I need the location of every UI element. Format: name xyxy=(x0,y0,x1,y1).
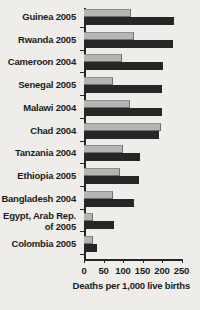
x-axis-tick-label: 0 xyxy=(81,265,86,276)
bar-dark xyxy=(84,131,159,139)
category-label: Tanzania 2004 xyxy=(15,148,76,159)
bar-dark xyxy=(84,17,174,25)
bar-light xyxy=(84,145,123,153)
bar-light xyxy=(84,9,131,17)
bar-dark xyxy=(84,108,162,116)
bar-dark xyxy=(84,199,134,207)
x-axis-tick xyxy=(104,259,105,263)
category-label: Egypt, Arab Rep. of 2005 xyxy=(3,211,76,232)
x-axis-tick xyxy=(162,259,163,263)
bar-dark xyxy=(84,244,97,252)
bar-light xyxy=(84,191,113,199)
bar-light xyxy=(84,100,130,108)
bar-dark xyxy=(84,153,140,161)
category-label: Bangladesh 2004 xyxy=(1,194,76,205)
bar-light xyxy=(84,213,93,221)
bar-light xyxy=(84,123,161,131)
y-axis-minor-tick xyxy=(80,163,84,164)
bar-light xyxy=(84,77,113,85)
x-axis-tick-label: 200 xyxy=(154,265,169,276)
category-label: Senegal 2005 xyxy=(18,80,76,91)
category-label: Chad 2004 xyxy=(30,126,76,137)
x-axis-line xyxy=(84,259,182,261)
category-label: Rwanda 2005 xyxy=(18,35,76,46)
category-label: Malawi 2004 xyxy=(23,103,76,114)
bar-light xyxy=(84,168,120,176)
category-label-group: Guinea 2005Rwanda 2005Cameroon 2004Seneg… xyxy=(0,8,80,258)
y-axis-minor-tick xyxy=(80,186,84,187)
bar-dark xyxy=(84,176,139,184)
category-label: Cameroon 2004 xyxy=(8,57,76,68)
x-axis-tick-label: 50 xyxy=(98,265,108,276)
y-axis-minor-tick xyxy=(80,209,84,210)
x-axis-tick xyxy=(84,259,85,263)
x-axis-tick-label: 150 xyxy=(135,265,150,276)
category-label: Colombia 2005 xyxy=(12,239,76,250)
y-axis-minor-tick xyxy=(80,50,84,51)
x-axis-tick xyxy=(182,259,183,263)
y-axis-minor-tick xyxy=(80,27,84,28)
y-axis-minor-tick xyxy=(80,118,84,119)
bar-light xyxy=(84,236,93,244)
x-axis-tick xyxy=(123,259,124,263)
x-axis-tick-label: 100 xyxy=(115,265,130,276)
bar-dark xyxy=(84,221,114,229)
category-label: Ethiopia 2005 xyxy=(17,171,76,182)
y-axis-minor-tick xyxy=(80,72,84,73)
plot-area xyxy=(84,8,184,258)
x-axis-tick xyxy=(143,259,144,263)
bar-dark xyxy=(84,40,173,48)
category-label: Guinea 2005 xyxy=(22,12,76,23)
infant-mortality-bar-chart: Guinea 2005Rwanda 2005Cameroon 2004Seneg… xyxy=(0,0,200,310)
x-axis-title: Deaths per 1,000 live births xyxy=(0,280,200,291)
bar-dark xyxy=(84,85,162,93)
bar-light xyxy=(84,32,134,40)
y-axis-minor-tick xyxy=(80,231,84,232)
bar-light xyxy=(84,54,122,62)
y-axis-minor-tick xyxy=(80,95,84,96)
y-axis-minor-tick xyxy=(80,254,84,255)
bar-dark xyxy=(84,62,163,70)
x-axis-tick-label: 250 xyxy=(174,265,189,276)
y-axis-minor-tick xyxy=(80,141,84,142)
